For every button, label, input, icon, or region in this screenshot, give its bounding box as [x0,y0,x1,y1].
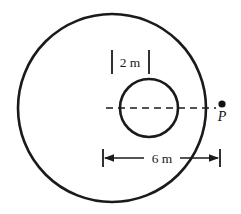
inner-diameter-label: 2 m [120,55,141,70]
span-dimension-label: 6 m [152,151,173,166]
point-p-label: P [217,109,227,124]
figure-canvas: 2 m 6 m P [0,0,241,214]
geometry-figure: 2 m 6 m P [0,0,241,214]
point-p-marker [218,100,225,107]
